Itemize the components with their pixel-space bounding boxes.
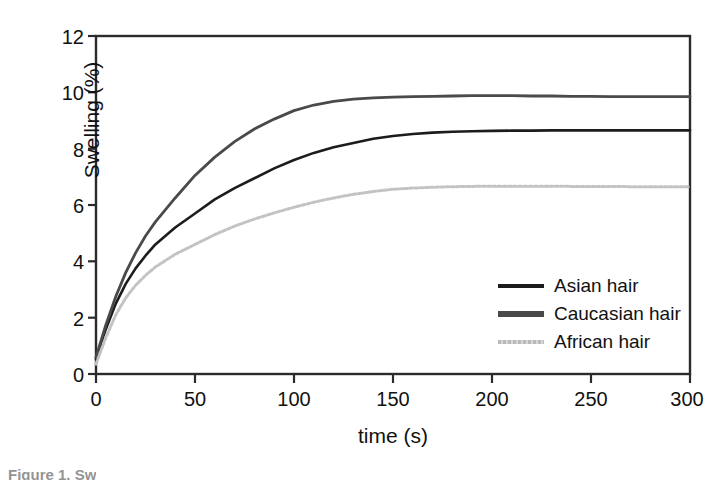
chart-legend: Asian hair Caucasian hair African hair	[498, 272, 681, 356]
y-tick-label: 2	[40, 308, 84, 331]
y-tick-label: 10	[40, 82, 84, 105]
y-tick-label: 8	[40, 139, 84, 162]
x-tick-label: 200	[462, 388, 522, 411]
legend-label: Asian hair	[554, 275, 639, 297]
figure-caption: Figure 1. Sw	[8, 466, 96, 480]
y-tick-label: 0	[40, 364, 84, 387]
x-tick-label: 50	[165, 388, 225, 411]
x-axis-title: time (s)	[96, 424, 690, 448]
x-axis-ticks	[96, 374, 690, 383]
legend-item-caucasian-hair: Caucasian hair	[498, 300, 681, 328]
line-swatch-gray-icon	[498, 308, 544, 320]
legend-item-african-hair: African hair	[498, 328, 681, 356]
legend-item-asian-hair: Asian hair	[498, 272, 681, 300]
legend-label: African hair	[554, 331, 650, 353]
line-swatch-light-icon	[498, 336, 544, 348]
y-tick-label: 4	[40, 251, 84, 274]
figure-container: 12 10 8 6 4 2 0 0 50 100 150 200 250 300…	[0, 0, 723, 480]
line-swatch-dark-icon	[498, 280, 544, 292]
x-tick-label: 150	[363, 388, 423, 411]
y-tick-label: 12	[40, 26, 84, 49]
y-axis-title: Swelling (%)	[80, 30, 104, 210]
x-tick-label: 300	[657, 388, 717, 411]
x-tick-label: 0	[66, 388, 126, 411]
x-tick-label: 250	[561, 388, 621, 411]
legend-label: Caucasian hair	[554, 303, 681, 325]
y-tick-label: 6	[40, 195, 84, 218]
x-tick-label: 100	[264, 388, 324, 411]
